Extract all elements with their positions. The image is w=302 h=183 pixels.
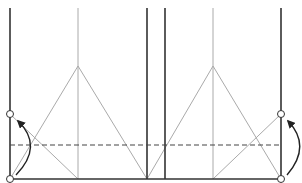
reference-points: [7, 111, 285, 183]
right-fold-arrow-icon: [287, 121, 300, 175]
right-target-circle-icon: [278, 111, 285, 118]
fold-arrows: [16, 121, 300, 175]
diagram-canvas: [0, 0, 302, 183]
left-target-circle-icon: [7, 111, 14, 118]
fold-diagram: [0, 0, 302, 183]
left-tri-right-leg-crease: [78, 66, 147, 179]
right-tri-right-leg-crease: [213, 66, 281, 179]
right-tri-left-leg-crease: [147, 66, 213, 179]
right-diagonal-crease: [213, 114, 281, 179]
left-origin-circle-icon: [7, 176, 14, 183]
crease-lines: [10, 8, 281, 179]
right-origin-circle-icon: [278, 176, 285, 183]
